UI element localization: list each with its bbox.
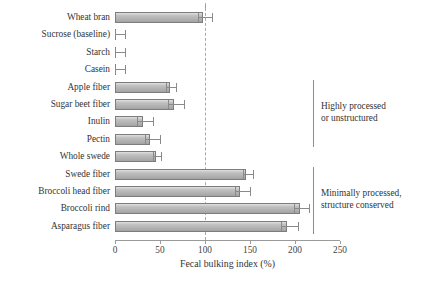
- bar-row: [115, 221, 340, 232]
- error-bar-cap: [198, 13, 199, 22]
- error-bar-cap: [281, 222, 282, 231]
- error-bar-cap: [166, 83, 167, 92]
- category-axis-labels: Wheat branSucrose (baseline)StarchCasein…: [0, 0, 110, 283]
- error-bar-cap: [115, 65, 116, 74]
- bar: [115, 203, 300, 214]
- x-tick: [205, 241, 206, 244]
- error-bar-cap: [309, 204, 310, 213]
- x-tick-label: 0: [113, 245, 118, 255]
- category-label: Asparagus fiber: [2, 222, 110, 231]
- error-bar: [243, 174, 253, 175]
- error-bar: [153, 156, 161, 157]
- x-axis-title: Fecal bulking index (%): [115, 258, 340, 269]
- error-bar-cap: [160, 135, 161, 144]
- error-bar: [235, 191, 250, 192]
- error-bar-cap: [115, 48, 116, 57]
- bar-row: [115, 186, 340, 197]
- group-annotation-text: Minimally processed,structure conserved: [321, 188, 402, 211]
- group-annotation-text: Highly processedor unstructured: [321, 101, 386, 124]
- error-bar-cap: [137, 117, 138, 126]
- error-bar-cap: [235, 187, 236, 196]
- category-label: Broccoli rind: [2, 204, 110, 213]
- plot-area: 050100150200250 Highly processedor unstr…: [115, 8, 340, 240]
- bar: [115, 82, 170, 93]
- bar: [115, 221, 287, 232]
- bar: [115, 12, 203, 23]
- x-tick: [340, 241, 341, 244]
- category-label: Starch: [2, 48, 110, 57]
- error-bar-cap: [145, 135, 146, 144]
- error-bar-cap: [168, 100, 169, 109]
- x-axis-line: [115, 240, 340, 241]
- x-tick-label: 250: [333, 245, 347, 255]
- bar-row: [115, 169, 340, 180]
- bar-row: [115, 64, 340, 75]
- error-bar-cap: [184, 100, 185, 109]
- category-label: Pectin: [2, 135, 110, 144]
- x-tick-label: 150: [243, 245, 257, 255]
- bar-row: [115, 99, 340, 110]
- error-bar-cap: [161, 152, 162, 161]
- error-bar-cap: [125, 30, 126, 39]
- error-bar-cap: [125, 48, 126, 57]
- reference-tick: [205, 5, 206, 8]
- category-label: Apple fiber: [2, 83, 110, 92]
- error-bar: [115, 34, 125, 35]
- error-bar-cap: [153, 117, 154, 126]
- x-tick: [115, 241, 116, 244]
- group-annotation-line1: Highly processed: [321, 101, 386, 113]
- bar-row: [115, 151, 340, 162]
- error-bar-cap: [212, 13, 213, 22]
- bar: [115, 151, 156, 162]
- x-tick: [295, 241, 296, 244]
- bar: [115, 99, 174, 110]
- error-bar: [198, 17, 212, 18]
- error-bar-cap: [298, 222, 299, 231]
- bar: [115, 186, 240, 197]
- x-tick: [250, 241, 251, 244]
- category-label: Sugar beet fiber: [2, 100, 110, 109]
- error-bar-cap: [253, 170, 254, 179]
- category-label: Swede fiber: [2, 170, 110, 179]
- error-bar: [168, 104, 185, 105]
- error-bar: [137, 121, 152, 122]
- error-bar: [281, 226, 298, 227]
- error-bar-cap: [250, 187, 251, 196]
- bar-row: [115, 29, 340, 40]
- error-bar-cap: [153, 152, 154, 161]
- error-bar: [294, 208, 309, 209]
- x-tick-label: 50: [155, 245, 164, 255]
- bar-row: [115, 134, 340, 145]
- x-tick: [160, 241, 161, 244]
- bar-row: [115, 47, 340, 58]
- category-label: Broccoli head fiber: [2, 187, 110, 196]
- category-label: Wheat bran: [2, 13, 110, 22]
- error-bar-cap: [115, 30, 116, 39]
- error-bar: [166, 87, 176, 88]
- error-bar-cap: [125, 65, 126, 74]
- bar: [115, 169, 246, 180]
- error-bar: [115, 52, 125, 53]
- group-bracket: [313, 80, 314, 147]
- error-bar-cap: [243, 170, 244, 179]
- x-tick-label: 200: [288, 245, 302, 255]
- bar-row: [115, 116, 340, 127]
- group-bracket: [313, 167, 314, 234]
- bar-row: [115, 12, 340, 23]
- group-annotation-line2: or unstructured: [321, 113, 386, 125]
- error-bar: [115, 69, 125, 70]
- category-label: Casein: [2, 65, 110, 74]
- category-label: Sucrose (baseline): [2, 30, 110, 39]
- error-bar-cap: [176, 83, 177, 92]
- error-bar: [145, 139, 160, 140]
- group-annotation-line2: structure conserved: [321, 200, 402, 212]
- x-tick-label: 100: [198, 245, 212, 255]
- bar-row: [115, 82, 340, 93]
- fecal-bulking-index-chart: Wheat branSucrose (baseline)StarchCasein…: [0, 0, 444, 283]
- category-label: Inulin: [2, 117, 110, 126]
- error-bar-cap: [294, 204, 295, 213]
- category-label: Whole swede: [2, 152, 110, 161]
- group-annotation-line1: Minimally processed,: [321, 188, 402, 200]
- bar-row: [115, 203, 340, 214]
